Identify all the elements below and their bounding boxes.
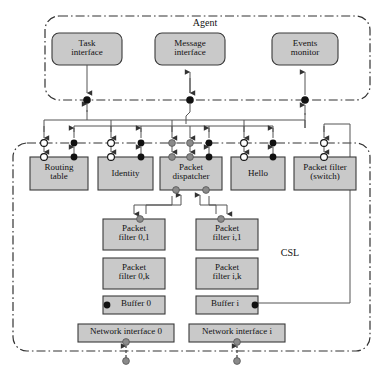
agent-box-message-interface[interactable]: [155, 33, 225, 65]
csl-box-buffer-0[interactable]: [103, 296, 165, 314]
port-dispatch-3-boundary: [206, 140, 213, 147]
port-routing-in-boundary: [41, 140, 48, 147]
port-hello-out-boundary: [270, 140, 277, 147]
port-ni0-bottom: [123, 339, 130, 346]
port-ni0-external: [123, 358, 130, 365]
csl-box-packet-filter-0-k[interactable]: [103, 258, 165, 289]
diagram-canvas: Agent CSL Task interface Message interfa…: [0, 0, 383, 375]
port-dispatch-1-boundary: [169, 140, 176, 147]
port-identity-out-boundary: [138, 140, 145, 147]
port-nii-external: [234, 358, 241, 365]
port-routing-out-boundary: [71, 140, 78, 147]
edge-pf0-return: [146, 205, 181, 214]
port-hello-in-boundary: [241, 140, 248, 147]
bus-events-to-switch: [258, 124, 350, 303]
csl-box-packet-filter-0-1[interactable]: [103, 219, 165, 250]
port-switch: [321, 154, 328, 161]
port-dispatch-3: [206, 154, 213, 161]
csl-box-packet-filter-i-1[interactable]: [196, 219, 258, 250]
csl-box-routing-table[interactable]: [30, 157, 88, 190]
agent-box-events-monitor[interactable]: [272, 33, 338, 65]
csl-box-buffer-i[interactable]: [196, 296, 258, 314]
port-buffer-0-left: [104, 302, 111, 309]
port-routing-in: [41, 154, 48, 161]
edge-message-stem: [186, 104, 190, 124]
port-identity-in-boundary: [108, 140, 115, 147]
port-dispatch-2: [187, 154, 194, 161]
csl-box-packet-filter-i-k[interactable]: [196, 258, 258, 289]
port-routing-out: [71, 154, 78, 161]
port-agent-message: [186, 96, 194, 104]
port-dispatch-bottom-right: [203, 187, 210, 194]
edge-pfi-return: [200, 205, 216, 214]
port-agent-events: [301, 96, 309, 104]
csl-box-identity[interactable]: [98, 157, 153, 190]
port-dispatch-2-boundary: [187, 140, 194, 147]
port-agent-task: [83, 96, 91, 104]
csl-box-packet-dispatcher[interactable]: [160, 157, 222, 190]
port-hello-out: [270, 154, 277, 161]
diagram-svg: [0, 0, 383, 375]
port-hello-in: [241, 154, 248, 161]
port-identity-in: [108, 154, 115, 161]
agent-box-task-interface[interactable]: [52, 33, 122, 65]
port-pfi-top: [218, 216, 225, 223]
port-nii-bottom: [234, 339, 241, 346]
port-switch-boundary: [321, 140, 328, 147]
port-buffer-i-right: [252, 302, 259, 309]
port-dispatch-bottom-left: [173, 187, 180, 194]
bus-lower: [74, 126, 273, 132]
port-dispatch-1: [169, 154, 176, 161]
csl-box-packet-filter-switch[interactable]: [294, 157, 356, 190]
csl-box-hello[interactable]: [231, 157, 285, 190]
port-identity-out: [138, 154, 145, 161]
port-pf0-top: [137, 216, 144, 223]
